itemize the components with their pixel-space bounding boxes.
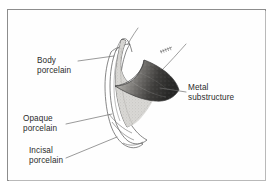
construction-lines [124,28,186,70]
hatch-mark-icon [160,47,172,54]
label-metal-substructure: Metal substructure [188,83,234,102]
label-incisal-porcelain: Incisal porcelain [29,146,63,165]
leader-line-incisal-porcelain [66,137,117,158]
leader-line-opaque-porcelain [66,114,112,124]
label-body-porcelain: Body porcelain [37,56,71,75]
illustration-artwork [66,28,190,158]
label-opaque-porcelain: Opaque porcelain [23,114,57,133]
figure-root: Body porcelain Opaque porcelain Incisal … [0,0,274,191]
